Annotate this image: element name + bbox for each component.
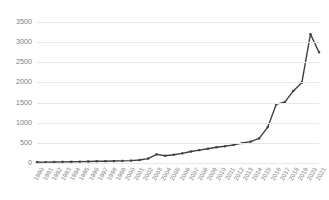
y-axis-tick-label: 1000 <box>0 119 32 126</box>
line-chart: 0500100015002000250030003500 19901991199… <box>0 0 329 200</box>
data-point-marker <box>215 146 217 148</box>
data-point-marker <box>292 90 294 92</box>
gridline <box>37 82 319 83</box>
x-axis-labels: 1990199119921993199419951996199719981999… <box>37 166 319 200</box>
gridline <box>37 22 319 23</box>
data-point-marker <box>232 144 234 146</box>
y-axis-tick-label: 3500 <box>0 18 32 25</box>
y-axis-tick-label: 2000 <box>0 78 32 85</box>
data-point-marker <box>207 148 209 150</box>
gridline <box>37 42 319 43</box>
data-point-marker <box>198 149 200 151</box>
data-point-marker <box>318 51 320 53</box>
gridline <box>37 143 319 144</box>
data-point-marker <box>190 150 192 152</box>
y-axis-tick-label: 1500 <box>0 99 32 106</box>
y-axis-tick-label: 500 <box>0 139 32 146</box>
data-point-marker <box>267 126 269 128</box>
gridline <box>37 123 319 124</box>
gridline <box>37 62 319 63</box>
plot-area <box>37 22 319 163</box>
data-series-line <box>37 22 319 163</box>
data-point-marker <box>224 145 226 147</box>
y-axis-tick-label: 2500 <box>0 58 32 65</box>
data-point-marker <box>309 33 311 35</box>
y-axis-tick-label: 3000 <box>0 38 32 45</box>
y-axis-tick-label: 0 <box>0 159 32 166</box>
gridline <box>37 103 319 104</box>
data-point-marker <box>258 137 260 139</box>
